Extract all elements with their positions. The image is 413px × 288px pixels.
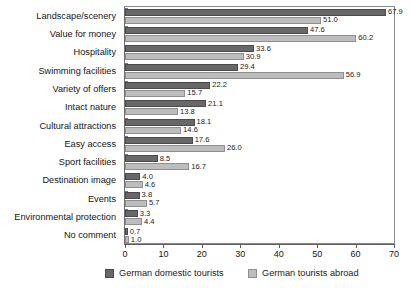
bar-value-label: 5.7 bbox=[149, 199, 160, 207]
x-tick-label: 70 bbox=[389, 249, 399, 259]
plot-area: 67.951.047.660.233.630.929.456.922.215.7… bbox=[124, 6, 395, 244]
category-label: Landscape/scenery bbox=[36, 11, 116, 21]
category-label: Sport facilities bbox=[59, 157, 116, 167]
bar-value-label: 47.6 bbox=[310, 26, 325, 34]
bar-abroad bbox=[125, 35, 356, 42]
bar-value-label: 4.6 bbox=[145, 181, 156, 189]
bar-value-label: 8.5 bbox=[160, 155, 171, 163]
bar-abroad bbox=[125, 90, 185, 97]
bar-abroad bbox=[125, 181, 143, 188]
bar-abroad bbox=[125, 53, 244, 60]
bar-value-label: 1.0 bbox=[131, 236, 142, 244]
category-label: Easy access bbox=[64, 139, 116, 149]
x-tick-mark bbox=[317, 244, 318, 248]
x-tick-label: 0 bbox=[122, 249, 127, 259]
x-tick-label: 40 bbox=[274, 249, 284, 259]
x-tick-label: 50 bbox=[312, 249, 322, 259]
bar-abroad bbox=[125, 218, 142, 225]
legend-swatch-icon bbox=[105, 269, 114, 278]
category-label: Swimming facilities bbox=[38, 66, 116, 76]
x-tick-mark bbox=[240, 244, 241, 248]
category-axis-labels: Landscape/sceneryValue for moneyHospital… bbox=[0, 6, 120, 244]
bar-abroad bbox=[125, 108, 178, 115]
category-label: Hospitality bbox=[74, 47, 116, 57]
bar-domestic bbox=[125, 173, 140, 180]
category-label: Value for money bbox=[50, 29, 116, 39]
bar-domestic bbox=[125, 210, 138, 217]
bar-value-label: 56.9 bbox=[346, 71, 361, 79]
bar-value-label: 22.2 bbox=[212, 81, 227, 89]
category-label: Cultural attractions bbox=[39, 121, 116, 131]
chart-legend: German domestic touristsGerman tourists … bbox=[0, 268, 413, 288]
category-label: Destination image bbox=[42, 175, 116, 185]
bar-abroad bbox=[125, 127, 181, 134]
legend-item-abroad[interactable]: German tourists abroad bbox=[248, 268, 359, 279]
bar-domestic bbox=[125, 27, 308, 34]
bar-value-label: 14.6 bbox=[183, 126, 198, 134]
x-tick-mark bbox=[163, 244, 164, 248]
x-tick-mark bbox=[202, 244, 203, 248]
category-label: Events bbox=[88, 194, 116, 204]
bar-value-label: 4.4 bbox=[144, 218, 155, 226]
bar-value-label: 18.1 bbox=[197, 118, 212, 126]
x-tick-mark bbox=[279, 244, 280, 248]
legend-swatch-icon bbox=[248, 269, 257, 278]
bar-domestic bbox=[125, 64, 238, 71]
bar-abroad bbox=[125, 145, 225, 152]
category-label: Intact nature bbox=[65, 102, 116, 112]
x-axis-line bbox=[124, 244, 395, 245]
legend-label: German tourists abroad bbox=[262, 268, 359, 279]
bar-value-label: 16.7 bbox=[191, 163, 206, 171]
bar-domestic bbox=[125, 155, 158, 162]
bar-value-label: 67.9 bbox=[388, 8, 403, 16]
bar-value-label: 60.2 bbox=[358, 34, 373, 42]
bar-value-label: 26.0 bbox=[227, 144, 242, 152]
x-tick-mark bbox=[356, 244, 357, 248]
bar-abroad bbox=[125, 163, 189, 170]
x-tick-label: 60 bbox=[351, 249, 361, 259]
bar-value-label: 17.6 bbox=[195, 136, 210, 144]
bar-value-label: 15.7 bbox=[187, 89, 202, 97]
legend-label: German domestic tourists bbox=[119, 268, 224, 279]
bar-value-label: 13.8 bbox=[180, 108, 195, 116]
legend-item-domestic[interactable]: German domestic tourists bbox=[105, 268, 224, 279]
x-tick-mark bbox=[394, 244, 395, 248]
bar-domestic bbox=[125, 228, 128, 235]
bar-abroad bbox=[125, 17, 321, 24]
x-tick-label: 30 bbox=[235, 249, 245, 259]
category-label: Environmental protection bbox=[14, 212, 116, 222]
category-label: No comment bbox=[64, 230, 116, 240]
bar-value-label: 30.9 bbox=[246, 53, 261, 61]
bar-abroad bbox=[125, 236, 129, 243]
bar-abroad bbox=[125, 72, 344, 79]
bar-domestic bbox=[125, 137, 193, 144]
bar-value-label: 21.1 bbox=[208, 100, 223, 108]
bar-abroad bbox=[125, 200, 147, 207]
bar-domestic bbox=[125, 192, 140, 199]
bar-value-label: 51.0 bbox=[323, 16, 338, 24]
x-tick-label: 10 bbox=[158, 249, 168, 259]
bar-domestic bbox=[125, 45, 254, 52]
bar-domestic bbox=[125, 9, 386, 16]
bar-value-label: 29.4 bbox=[240, 63, 255, 71]
x-tick-label: 20 bbox=[197, 249, 207, 259]
horizontal-bar-chart: Landscape/sceneryValue for moneyHospital… bbox=[0, 0, 413, 288]
x-tick-mark bbox=[125, 244, 126, 248]
category-label: Variety of offers bbox=[53, 84, 117, 94]
